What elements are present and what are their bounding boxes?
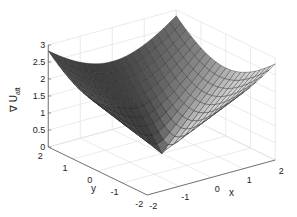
y-tick-label: -2 — [135, 199, 143, 209]
x-tick-label: 2 — [279, 166, 284, 176]
x-tick-label: -2 — [149, 201, 157, 211]
y-axis-label: y — [91, 183, 96, 194]
z-axis-label: ∇ Uatt — [8, 87, 21, 113]
surface-mesh — [48, 16, 275, 154]
z-tick-label: 1 — [40, 108, 45, 118]
z-tick-label: 2.5 — [33, 57, 46, 67]
y-tick-label: -1 — [110, 187, 118, 197]
z-axis-label-subscript: att — [14, 87, 21, 95]
surface-plot: 00.511.522.53-2-1012-2-1012 x y ∇ Uatt — [0, 0, 297, 217]
z-tick-label: 1.5 — [33, 91, 46, 101]
z-axis-label-main: ∇ U — [8, 95, 19, 113]
x-tick-label: 1 — [247, 175, 252, 185]
y-tick-label: 2 — [38, 151, 43, 161]
y-tick-label: 1 — [62, 163, 67, 173]
x-axis-label: x — [229, 187, 234, 198]
x-tick-label: -1 — [181, 192, 189, 202]
z-tick-label: 3 — [40, 40, 45, 50]
z-tick-label: 0.5 — [33, 125, 46, 135]
svg-text:∇ Uatt: ∇ Uatt — [8, 87, 21, 113]
z-tick-label: 2 — [40, 74, 45, 84]
x-tick-label: 0 — [215, 184, 220, 194]
